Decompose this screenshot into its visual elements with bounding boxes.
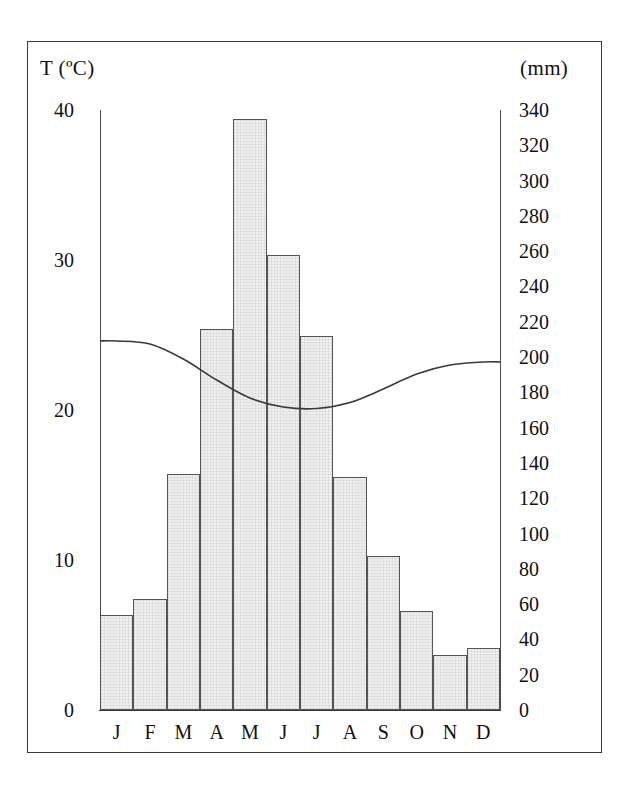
month-label: J: [300, 722, 334, 742]
month-label: O: [400, 722, 434, 742]
right-tick-label: 240: [519, 276, 549, 296]
right-tick-label: 140: [519, 453, 549, 473]
month-label: N: [433, 722, 467, 742]
month-label: J: [100, 722, 134, 742]
right-tick-label: 200: [519, 347, 549, 367]
temperature-curve: [100, 110, 500, 710]
month-label: M: [166, 722, 200, 742]
right-axis-line: [500, 110, 501, 710]
month-label: S: [366, 722, 400, 742]
x-axis-baseline: [99, 710, 501, 711]
month-label: D: [466, 722, 500, 742]
right-tick-label: 260: [519, 241, 549, 261]
climograph-page: T (ºC) (mm) 3403203002802602402202001801…: [0, 0, 629, 792]
right-tick-label: 180: [519, 382, 549, 402]
month-label: J: [266, 722, 300, 742]
right-tick-label: 340: [519, 100, 549, 120]
right-tick-label: 40: [519, 629, 539, 649]
right-tick-label: 120: [519, 488, 549, 508]
right-tick-label: 0: [519, 700, 529, 720]
right-tick-label: 60: [519, 594, 539, 614]
month-label: M: [233, 722, 267, 742]
right-tick-label: 300: [519, 171, 549, 191]
right-tick-label: 220: [519, 312, 549, 332]
right-tick-label: 80: [519, 559, 539, 579]
right-tick-label: 160: [519, 418, 549, 438]
right-tick-label: 280: [519, 206, 549, 226]
left-axis-title: T (ºC): [40, 56, 95, 81]
left-tick-label: 30: [30, 250, 74, 270]
month-label: A: [333, 722, 367, 742]
month-label: F: [133, 722, 167, 742]
left-tick-label: 40: [30, 100, 74, 120]
left-tick-label: 0: [30, 700, 74, 720]
left-tick-label: 20: [30, 400, 74, 420]
right-tick-label: 20: [519, 665, 539, 685]
month-label: A: [200, 722, 234, 742]
left-tick-label: 10: [30, 550, 74, 570]
right-axis-title: (mm): [520, 56, 568, 81]
right-tick-label: 320: [519, 135, 549, 155]
right-tick-label: 100: [519, 524, 549, 544]
